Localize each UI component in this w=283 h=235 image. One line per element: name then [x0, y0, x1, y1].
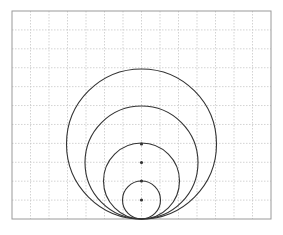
- center-dot: [140, 179, 143, 182]
- center-dot: [140, 161, 143, 164]
- center-dot: [140, 198, 143, 201]
- center-dots-group: [140, 142, 143, 201]
- center-dot: [140, 142, 143, 145]
- grid-lines: [12, 11, 271, 219]
- nested-tangent-circles-diagram: [0, 0, 283, 235]
